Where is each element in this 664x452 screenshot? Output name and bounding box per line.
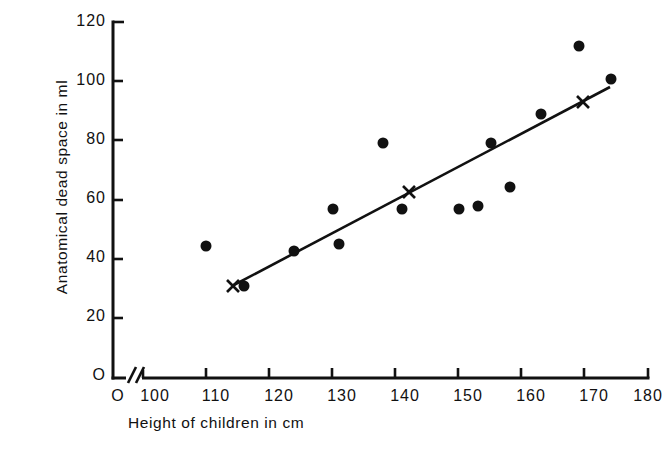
- data-point: [505, 182, 516, 193]
- data-point: [486, 138, 497, 149]
- data-point: [239, 281, 250, 292]
- data-point: [454, 204, 465, 215]
- data-point: [378, 138, 389, 149]
- scatter-chart-figure: 120 100 80 60 40 20 O O 100 110 120 130 …: [0, 0, 664, 452]
- plot-canvas: [0, 0, 664, 452]
- data-point: [201, 241, 212, 252]
- data-point: [473, 201, 484, 212]
- data-point: [328, 204, 339, 215]
- regression-line: [232, 87, 610, 286]
- data-point: [606, 74, 617, 85]
- data-point: [536, 109, 547, 120]
- scatter-points: [201, 41, 617, 292]
- data-point: [334, 239, 345, 250]
- x-cross-marker: [227, 280, 239, 292]
- x-axis-break-icon: [126, 367, 144, 383]
- data-point: [397, 204, 408, 215]
- data-point: [289, 246, 300, 257]
- data-point: [574, 41, 585, 52]
